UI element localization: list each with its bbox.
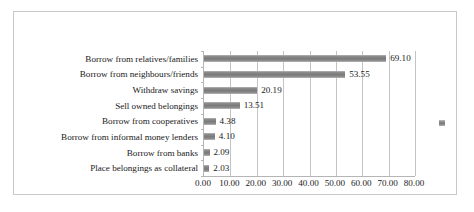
- bar-value-label: 4.38: [220, 117, 236, 126]
- gridline: [283, 51, 284, 176]
- category-tick-mark: [201, 98, 204, 99]
- bar-value-label: 2.03: [213, 164, 229, 173]
- gridline: [415, 51, 416, 176]
- category-tick-mark: [201, 114, 204, 115]
- bar[interactable]: [204, 149, 210, 156]
- chart-plot-wrapper: Borrow from relatives/familiesBorrow fro…: [14, 12, 458, 196]
- value-tick-label: 50.00: [325, 178, 345, 189]
- value-tick-label: 20.00: [246, 178, 266, 189]
- gridline: [389, 51, 390, 176]
- category-tick-mark: [201, 82, 204, 83]
- category-label: Withdraw savings: [12, 85, 198, 95]
- bar[interactable]: [204, 87, 257, 94]
- category-tick-mark: [201, 176, 204, 177]
- gridline: [257, 51, 258, 176]
- category-label: Borrow from banks: [12, 148, 198, 158]
- bar-value-label: 13.51: [244, 101, 264, 110]
- bar-row[interactable]: 2.03: [204, 165, 415, 172]
- bar-row[interactable]: 69.10: [204, 55, 415, 62]
- bar-row[interactable]: 20.19: [204, 87, 415, 94]
- bar-row[interactable]: 53.55: [204, 71, 415, 78]
- chart-frame: Borrow from relatives/familiesBorrow fro…: [13, 11, 457, 195]
- bar-value-label: 53.55: [349, 70, 369, 79]
- gridline: [310, 51, 311, 176]
- value-tick-label: 10.00: [219, 178, 239, 189]
- bar[interactable]: [204, 71, 345, 78]
- legend-swatch-icon: [439, 120, 445, 126]
- category-label: Sell owned belongings: [12, 101, 198, 111]
- category-tick-mark: [201, 67, 204, 68]
- value-tick-label: 30.00: [272, 178, 292, 189]
- category-tick-mark: [201, 129, 204, 130]
- bar[interactable]: [204, 133, 215, 140]
- category-label: Borrow from neighbours/friends: [12, 69, 198, 79]
- bar-value-label: 69.10: [390, 54, 410, 63]
- category-tick-mark: [201, 160, 204, 161]
- category-label: Place belongings as collateral: [12, 163, 198, 173]
- category-label: Borrow from cooperatives: [12, 116, 198, 126]
- bar-value-label: 4.10: [219, 132, 235, 141]
- value-tick-label: 60.00: [351, 178, 371, 189]
- bar-row[interactable]: 4.10: [204, 133, 415, 140]
- category-axis-labels: Borrow from relatives/familiesBorrow fro…: [14, 51, 201, 176]
- bar-row[interactable]: 13.51: [204, 102, 415, 109]
- category-tick-mark: [201, 145, 204, 146]
- bar[interactable]: [204, 118, 216, 125]
- plot-area: 69.1053.5520.1913.514.384.102.092.03: [203, 51, 415, 177]
- gridline: [336, 51, 337, 176]
- gridline: [230, 51, 231, 176]
- value-tick-label: 70.00: [377, 178, 397, 189]
- category-tick-mark: [201, 51, 204, 52]
- category-label: Borrow from relatives/families: [12, 54, 198, 64]
- value-axis-tick-labels: 0.0010.0020.0030.0040.0050.0060.0070.008…: [203, 178, 414, 192]
- value-tick-label: 0.00: [195, 178, 211, 189]
- value-tick-label: 80.00: [404, 178, 424, 189]
- category-label: Borrow from informal money lenders: [12, 132, 198, 142]
- bar[interactable]: [204, 102, 240, 109]
- bar-row[interactable]: 4.38: [204, 118, 415, 125]
- bar-row[interactable]: 2.09: [204, 149, 415, 156]
- value-tick-label: 40.00: [298, 178, 318, 189]
- bar-value-label: 20.19: [261, 86, 281, 95]
- bar[interactable]: [204, 165, 209, 172]
- bar-value-label: 2.09: [214, 148, 230, 157]
- bar[interactable]: [204, 55, 386, 62]
